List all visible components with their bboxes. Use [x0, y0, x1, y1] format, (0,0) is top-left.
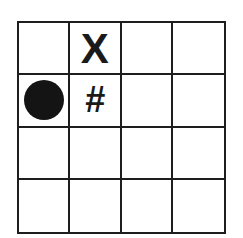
x-mark-icon: X: [81, 28, 109, 70]
grid-cell-r0-c2: [122, 23, 173, 75]
grid-cell-r2-c0: [19, 128, 70, 180]
grid-cell-r1-c3: [173, 75, 224, 127]
grid-cell-r1-c1: #: [70, 75, 121, 127]
grid-cell-r2-c2: [122, 128, 173, 180]
grid-cell-r0-c3: [173, 23, 224, 75]
grid-cell-r3-c1: [70, 180, 121, 232]
hash-mark-icon: #: [85, 82, 105, 118]
grid-cell-r3-c0: [19, 180, 70, 232]
grid-cell-r0-c1: X: [70, 23, 121, 75]
grid-cell-r2-c3: [173, 128, 224, 180]
grid-cell-r3-c3: [173, 180, 224, 232]
grid-cell-r1-c0: [19, 75, 70, 127]
grid-cell-r0-c0: [19, 23, 70, 75]
grid-board: X #: [17, 21, 226, 234]
grid-cell-r1-c2: [122, 75, 173, 127]
grid-cell-r2-c1: [70, 128, 121, 180]
filled-circle-icon: [24, 80, 64, 120]
grid-cell-r3-c2: [122, 180, 173, 232]
